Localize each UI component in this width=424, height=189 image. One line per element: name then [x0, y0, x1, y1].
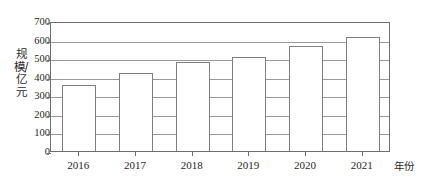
y-axis-tick-mark: [47, 60, 51, 61]
bar-chart: 规模/亿元 0100200300400500600700 年份 20162017…: [0, 0, 424, 189]
x-axis-tick-label: 2020: [279, 159, 331, 172]
y-axis-tick-mark: [47, 116, 51, 117]
plot-area: [50, 22, 390, 152]
x-axis-tick-label: 2018: [166, 159, 218, 172]
x-axis-tick-mark: [192, 152, 193, 156]
y-axis-tick-mark: [47, 153, 51, 154]
x-axis-tick-label: 2021: [336, 159, 388, 172]
x-axis-tick-mark: [362, 152, 363, 156]
y-axis-tick-mark: [47, 97, 51, 98]
x-axis-tick-label: 2016: [52, 159, 104, 172]
bar: [289, 46, 323, 151]
bar: [62, 85, 96, 151]
gridline: [51, 97, 389, 98]
x-axis-tick-mark: [305, 152, 306, 156]
y-axis-tick-mark: [47, 134, 51, 135]
x-axis-tick-mark: [78, 152, 79, 156]
x-axis-tick-mark: [248, 152, 249, 156]
x-axis-tick-label: 2019: [222, 159, 274, 172]
y-axis-tick-labels: 0100200300400500600700: [26, 14, 50, 174]
y-axis-tick-mark: [47, 42, 51, 43]
gridline: [51, 60, 389, 61]
gridline: [51, 116, 389, 117]
bar: [119, 73, 153, 151]
bar: [176, 62, 210, 151]
x-axis-title: 年份: [394, 160, 414, 172]
x-axis-tick-label: 2017: [109, 159, 161, 172]
bar: [232, 57, 266, 151]
y-axis-tick-mark: [47, 23, 51, 24]
y-axis-tick-mark: [47, 79, 51, 80]
x-axis-tick-mark: [135, 152, 136, 156]
bar: [346, 37, 380, 151]
gridline: [51, 79, 389, 80]
gridline: [51, 134, 389, 135]
gridline: [51, 42, 389, 43]
